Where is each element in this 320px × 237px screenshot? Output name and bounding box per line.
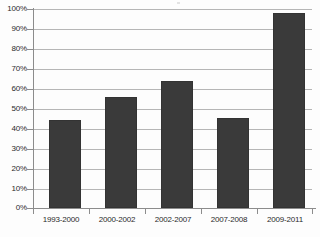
scan-artifact	[177, 2, 180, 4]
y-axis-tick-label: 80%	[1, 45, 27, 53]
y-axis-tick-label: 30%	[1, 145, 27, 153]
y-axis-tick-label: 60%	[1, 85, 27, 93]
x-axis-tick	[145, 209, 146, 214]
bar-2002-2007	[161, 81, 193, 208]
gridline	[33, 49, 312, 50]
bar-1993-2000	[49, 120, 81, 208]
x-axis-tick	[257, 209, 258, 214]
y-axis-tick-label: 10%	[1, 185, 27, 193]
y-axis-line	[33, 8, 34, 209]
x-axis-tick	[89, 209, 90, 214]
gridline	[33, 29, 312, 30]
x-axis-tick	[201, 209, 202, 214]
gridline	[33, 9, 312, 10]
bar-chart: 100% 90% 80% 70% 60% 50% 40% 30% 20% 10%…	[0, 0, 320, 237]
x-axis-line	[27, 208, 316, 209]
bar-2009-2011	[273, 13, 305, 208]
bar-2007-2008	[217, 118, 249, 208]
y-axis-tick-label: 0%	[1, 204, 27, 212]
x-axis-category-label: 2002-2007	[145, 215, 201, 224]
y-axis-tick-label: 50%	[1, 105, 27, 113]
y-axis-tick-label: 70%	[1, 65, 27, 73]
bar-2000-2002	[105, 97, 137, 208]
y-axis-tick-label: 90%	[1, 25, 27, 33]
x-axis-category-label: 2009-2011	[257, 215, 313, 224]
plot-area	[33, 9, 312, 208]
x-axis-category-label: 2007-2008	[201, 215, 257, 224]
y-axis-tick-label: 100%	[1, 5, 27, 13]
y-axis-labels: 100% 90% 80% 70% 60% 50% 40% 30% 20% 10%…	[0, 0, 27, 237]
gridline	[33, 69, 312, 70]
x-axis-category-label: 1993-2000	[33, 215, 89, 224]
x-axis-tick	[312, 209, 313, 214]
y-axis-tick-label: 20%	[1, 165, 27, 173]
x-axis-category-label: 2000-2002	[89, 215, 145, 224]
y-axis-tick-label: 40%	[1, 125, 27, 133]
x-axis-tick	[33, 209, 34, 214]
